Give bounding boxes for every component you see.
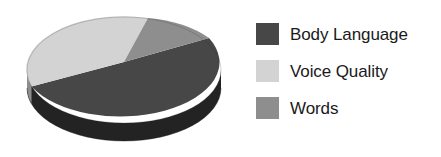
pie-chart-svg [0, 0, 250, 157]
chart-legend: Body Language Voice Quality Words [256, 16, 441, 144]
legend-item-words[interactable]: Words [256, 90, 441, 126]
legend-swatch-voice-quality [256, 60, 279, 82]
pie-chart-plot-area [0, 0, 250, 157]
legend-swatch-body-language [256, 23, 279, 45]
legend-item-body-language[interactable]: Body Language [256, 16, 441, 52]
legend-label-words: Words [290, 99, 338, 118]
legend-swatch-words [256, 97, 279, 119]
legend-label-body-language: Body Language [290, 25, 408, 44]
pie-chart-figure: Body Language Voice Quality Words [0, 0, 441, 157]
legend-label-voice-quality: Voice Quality [290, 62, 388, 81]
legend-item-voice-quality[interactable]: Voice Quality [256, 53, 441, 89]
